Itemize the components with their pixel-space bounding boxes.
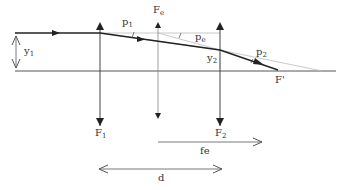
label-fe: Fe [153, 5, 164, 17]
label-d-distance: d [158, 173, 164, 183]
label-pe: pe [195, 32, 206, 44]
lens-1-bottom-arrow-icon [96, 118, 104, 126]
label-f2: F2 [215, 128, 226, 140]
label-f1: F1 [95, 128, 106, 140]
ray-between-lenses-arrow-icon [137, 36, 145, 42]
construction-line-pe [158, 33, 220, 50]
lens-2-top-arrow-icon [216, 22, 224, 30]
angle-arc-pe [179, 33, 181, 38]
label-f-prime: F' [275, 75, 285, 85]
fe-top-arrow-icon [155, 22, 161, 28]
incident-ray-arrow-icon [52, 30, 60, 36]
lens-2-bottom-arrow-icon [216, 118, 224, 126]
lens-1-top-arrow-icon [96, 22, 104, 30]
label-p2: p2 [256, 47, 267, 59]
label-fe-distance: fe [200, 146, 210, 156]
fe-bottom-arrow-icon [155, 113, 161, 119]
label-p1: p1 [122, 17, 133, 29]
label-y2: y2 [207, 53, 217, 65]
label-y1: y1 [24, 46, 34, 58]
optics-diagram [0, 0, 343, 190]
